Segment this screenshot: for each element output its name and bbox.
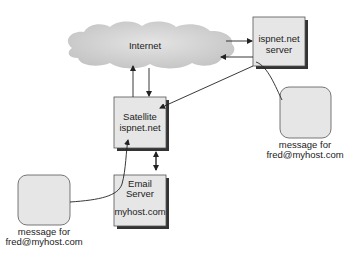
satellite-line1: Satellite — [123, 111, 157, 122]
email-server-line2: Server — [126, 188, 154, 199]
isp-server-box: ispnet.net server — [253, 17, 308, 69]
satellite-box: Satellite ispnet.net — [114, 97, 169, 151]
email-server-line3: myhost.com — [114, 206, 165, 217]
isp-server-line2: server — [266, 44, 292, 55]
arrow-isp-to-satellite — [160, 66, 253, 108]
diagram-canvas: Internet ispnet.net server Satellite isp… — [0, 0, 349, 255]
message-right: message for fred@myhost.com — [266, 87, 343, 160]
message-left: message for fred@myhost.com — [5, 175, 82, 247]
message-left-line2: fred@myhost.com — [5, 236, 82, 247]
message-right-line2: fred@myhost.com — [266, 149, 343, 160]
internet-cloud: Internet — [68, 22, 234, 69]
satellite-line2: ispnet.net — [119, 122, 161, 133]
isp-server-line1: ispnet.net — [258, 33, 300, 44]
internet-label: Internet — [129, 40, 162, 51]
